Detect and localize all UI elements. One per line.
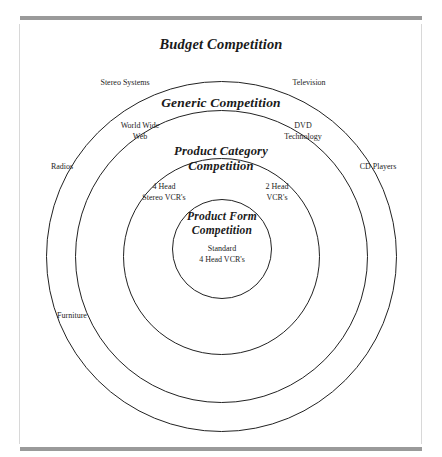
label-world-wide-web: World Wide Web <box>104 121 176 143</box>
figure-canvas: Budget Competition Generic Competition P… <box>0 0 442 457</box>
label-standard-4-head-vcrs: Standard 4 Head VCR's <box>172 244 272 266</box>
label-radios: Radios <box>32 162 92 173</box>
label-cd-players: CD Players <box>342 162 414 173</box>
label-television: Television <box>268 78 350 89</box>
bottom-rule-divider <box>20 447 422 451</box>
frame-line-right <box>421 24 422 444</box>
label-dvd-technology: DVD Technology <box>272 121 334 143</box>
title-generic-competition: Generic Competition <box>106 95 336 111</box>
label-4-head-stereo-vcrs: 4 Head Stereo VCR's <box>126 182 202 204</box>
label-stereo-systems: Stereo Systems <box>80 78 170 89</box>
title-budget-competition: Budget Competition <box>96 36 346 53</box>
label-furniture: Furniture <box>36 311 108 322</box>
frame-line-left <box>19 24 20 444</box>
title-product-category-competition: Product Category Competition <box>126 144 316 174</box>
title-product-form-competition: Product Form Competition <box>152 210 292 237</box>
label-2-head-vcrs: 2 Head VCR's <box>246 182 308 204</box>
top-rule-divider <box>20 16 422 20</box>
